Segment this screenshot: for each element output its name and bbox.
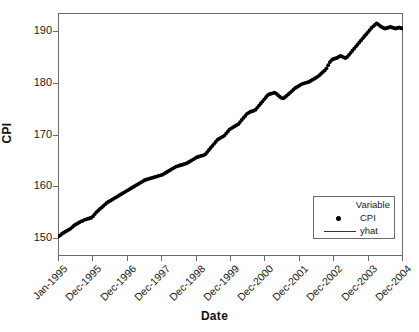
y-tick-label: 150 (24, 232, 52, 243)
x-tick-mark (368, 256, 369, 261)
y-tick-mark (53, 135, 58, 136)
y-tick-mark (53, 83, 58, 84)
x-tick-mark (402, 256, 403, 261)
legend-title: Variable (314, 199, 390, 210)
y-tick-label: 160 (24, 180, 52, 191)
y-tick-label: 190 (24, 25, 52, 36)
x-tick-mark (230, 256, 231, 261)
x-tick-mark (58, 256, 59, 261)
x-tick-mark (299, 256, 300, 261)
x-tick-mark (161, 256, 162, 261)
x-tick-label: Dec-1998 (168, 263, 208, 303)
y-axis-title: CPI (0, 113, 14, 153)
circle-marker-icon (320, 212, 358, 224)
x-axis-title-text: Date (201, 309, 228, 323)
y-tick-label: 170 (24, 129, 52, 140)
y-tick-mark (53, 186, 58, 187)
line-marker-icon (320, 225, 358, 237)
x-tick-label: Dec-1997 (133, 263, 173, 303)
legend: Variable CPI yhat (313, 196, 395, 239)
y-tick-label: 180 (24, 77, 52, 88)
legend-entry-yhat[interactable]: yhat (314, 225, 396, 238)
x-tick-label: Dec-2004 (374, 263, 414, 303)
x-tick-mark (127, 256, 128, 261)
x-tick-label: Dec-1999 (202, 263, 242, 303)
x-tick-label: Dec-2001 (271, 263, 311, 303)
x-tick-mark (196, 256, 197, 261)
x-tick-mark (264, 256, 265, 261)
y-tick-mark (53, 31, 58, 32)
x-tick-label: Dec-1996 (99, 263, 139, 303)
x-tick-label: Dec-2003 (340, 263, 380, 303)
x-tick-label: Dec-2002 (305, 263, 345, 303)
x-tick-mark (333, 256, 334, 261)
x-tick-label: Dec-2000 (236, 263, 276, 303)
cpi-time-series-chart: CPI 150160170180190 Jan-1995Dec-1995Dec-… (0, 0, 419, 332)
x-tick-label: Dec-1995 (64, 263, 104, 303)
legend-label-cpi: CPI (360, 212, 376, 224)
y-tick-mark (53, 238, 58, 239)
legend-label-yhat: yhat (360, 225, 378, 237)
x-axis-title: Date (0, 309, 419, 323)
x-tick-mark (92, 256, 93, 261)
legend-entry-cpi[interactable]: CPI (314, 212, 396, 225)
